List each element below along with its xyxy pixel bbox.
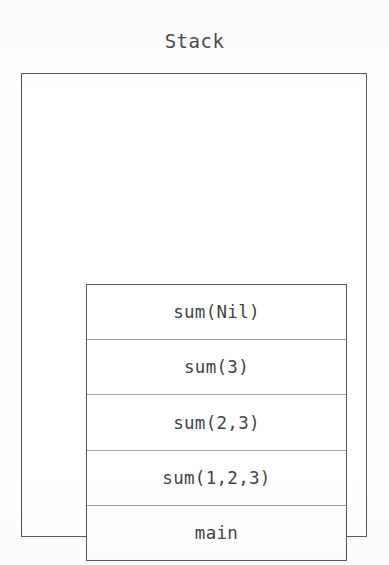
stack-frame: main (87, 506, 346, 560)
stack-diagram: Stack sum(Nil) sum(3) sum(2,3) sum(1,2,3… (0, 0, 389, 565)
stack-frame: sum(3) (87, 340, 346, 395)
stack-frame-label: sum(1,2,3) (162, 468, 270, 488)
stack-frame: sum(1,2,3) (87, 451, 346, 506)
stack-frame-label: sum(2,3) (173, 413, 260, 433)
page-title: Stack (0, 28, 389, 54)
stack-frame: sum(Nil) (87, 285, 346, 340)
stack-container: sum(Nil) sum(3) sum(2,3) sum(1,2,3) main (21, 73, 367, 537)
stack-frame-label: sum(3) (184, 357, 249, 377)
stack-frame-label: sum(Nil) (173, 302, 260, 322)
stack-frame-label: main (195, 523, 238, 543)
stack-frame: sum(2,3) (87, 395, 346, 450)
stack-frames: sum(Nil) sum(3) sum(2,3) sum(1,2,3) main (86, 284, 347, 561)
